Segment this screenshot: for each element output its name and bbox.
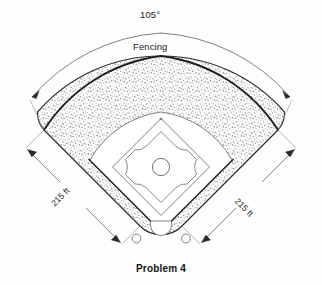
right-dim-arrow-bottom bbox=[202, 235, 211, 243]
angle-label: 105° bbox=[140, 9, 160, 20]
right-dim-arrow-top bbox=[285, 150, 294, 158]
on-deck-circle-right bbox=[182, 234, 191, 243]
fencing-label: Fencing bbox=[133, 41, 168, 52]
left-dim-arrow-bottom bbox=[111, 235, 120, 243]
angle-arrow-left bbox=[32, 91, 39, 99]
right-dim-extension-top bbox=[278, 130, 296, 148]
pitchers-mound-circle bbox=[152, 158, 169, 175]
left-dim-arrow-top bbox=[28, 150, 37, 158]
on-deck-circle-left bbox=[132, 234, 141, 243]
angle-arrow-right bbox=[283, 91, 290, 99]
left-dim-extension-top bbox=[26, 130, 44, 148]
figure-caption: Problem 4 bbox=[0, 263, 322, 274]
baseball-field-figure: 105° Fencing 215 ft 215 ft Problem 4 bbox=[0, 0, 322, 285]
